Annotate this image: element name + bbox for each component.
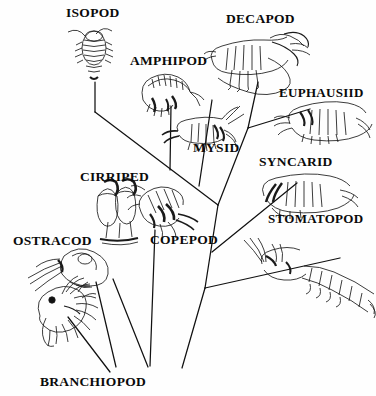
decapod-branch: [248, 82, 258, 128]
cirriped-illustration: [97, 179, 138, 245]
amphipod-illustration: [142, 74, 204, 117]
taxon-label-syncarid: SYNCARID: [259, 155, 333, 169]
isopod-illustration: [68, 29, 113, 79]
branchiopod-leader: [68, 317, 110, 372]
taxon-label-amphipod: AMPHIPOD: [130, 54, 207, 68]
tree-branch-lines: [68, 82, 340, 372]
taxon-label-euphausiid: EUPHAUSIID: [279, 86, 364, 99]
taxon-label-copepod: COPEPOD: [150, 233, 218, 247]
stomatopod-illustration: [244, 238, 375, 318]
taxon-label-ostracod: OSTRACOD: [13, 234, 92, 248]
taxon-label-stomatopod: STOMATOPOD: [268, 212, 363, 225]
taxon-label-isopod: ISOPOD: [66, 6, 120, 20]
cirriped-leader: [113, 279, 148, 367]
taxon-label-decapod: DECAPOD: [226, 12, 295, 26]
taxon-label-cirriped: CIRRIPED: [80, 170, 149, 184]
copepod-leader: [150, 230, 155, 366]
euphausiid-illustration: [274, 102, 372, 145]
cladogram-figure: ISOPOD DECAPOD AMPHIPOD EUPHAUSIID MYSID…: [0, 0, 376, 396]
taxon-label-branchiopod: BRANCHIOPOD: [40, 375, 146, 389]
ostracod-leader: [96, 282, 116, 367]
main-trunk-lower: [182, 288, 205, 368]
taxon-label-mysid: MYSID: [193, 141, 240, 155]
